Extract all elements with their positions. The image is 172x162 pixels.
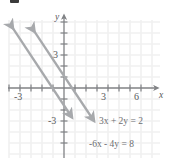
coordinate-plot xyxy=(0,0,172,162)
graph-figure: x y -3 3 6 3 -3 3x + 2y = 2 -6x - 4y = 8 xyxy=(0,0,172,162)
y-tick-label-3: 3 xyxy=(53,50,58,60)
x-tick-label-6: 6 xyxy=(134,92,139,102)
equation-label-line-1: 3x + 2y = 2 xyxy=(99,117,143,127)
y-axis-label: y xyxy=(55,13,59,23)
x-axis-label: x xyxy=(159,91,163,101)
y-tick-label-minus3: -3 xyxy=(48,116,56,126)
grid-lines xyxy=(9,20,160,158)
equation-label-line-2: -6x - 4y = 8 xyxy=(89,140,134,150)
x-tick-label-3: 3 xyxy=(101,92,106,102)
x-tick-label-minus3: -3 xyxy=(14,92,22,102)
